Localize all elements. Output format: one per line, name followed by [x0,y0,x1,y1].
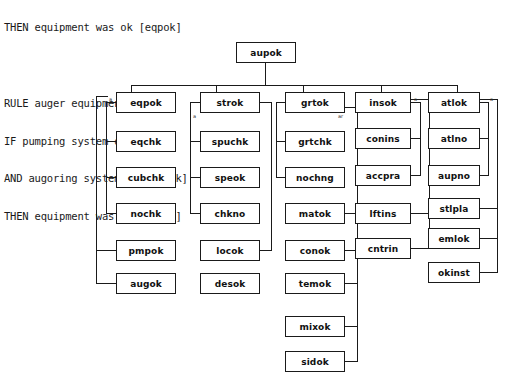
tree-node-pmpok[interactable]: pmpok [116,240,176,261]
tree-node-atlno[interactable]: atlno [428,128,480,149]
edge-marker-2: a [193,114,196,119]
tree-node-eqchk[interactable]: eqchk [116,131,176,152]
tree-node-speok[interactable]: speok [200,167,260,188]
connector-c2-locok-out [260,250,272,251]
tree-node-okinst[interactable]: okinst [428,262,480,283]
connector-root-stem [265,63,266,86]
tree-node-aupno[interactable]: aupno [428,165,480,186]
connector-c3-grtok-in [276,102,285,103]
connector-c1-eqpok-in [106,102,116,103]
tree-node-nochk[interactable]: nochk [116,203,176,224]
tree-node-conok[interactable]: conok [285,240,345,261]
tree-node-temok[interactable]: temok [285,273,345,294]
tree-node-sidok[interactable]: sidok [285,351,345,372]
tree-node-atlok[interactable]: atlok [428,92,480,113]
connector-c1-inner-bus [106,102,107,214]
tree-node-cntrin[interactable]: cntrin [355,238,411,259]
connector-c3-temok-out [345,283,358,284]
tree-node-mixok[interactable]: mixok [285,316,345,337]
tree-node-emlok[interactable]: emlok [428,228,480,249]
tree-diagram: aupok eqpok eqchk cubchk nochk pmpok aug… [0,0,514,392]
connector-c5-outer-bus [497,99,498,273]
tree-node-stlpla[interactable]: stlpla [428,198,480,219]
connector-c4-conins-out [411,138,421,139]
edge-marker-4: a [414,97,417,102]
connector-c3-grtchk-in [276,141,285,142]
connector-c1-cubchk-in [106,177,116,178]
connector-c1-outer-top [96,96,108,97]
connector-c2-inner-bus [190,102,191,214]
tree-node-spuchk[interactable]: spuchk [200,131,260,152]
connector-c5-stlpla-out [480,208,498,209]
tree-node-locok[interactable]: locok [200,240,260,261]
tree-node-conins[interactable]: conins [355,128,411,149]
connector-c1-augok-in [96,283,116,284]
tree-node-insok[interactable]: insok [355,92,411,113]
connector-c5-okinst-out [480,272,498,273]
connector-c1-outer-bus [96,96,97,284]
tree-node-root[interactable]: aupok [236,42,296,63]
connector-c1-nochk-in [106,213,116,214]
connector-c2-spuchk-in [190,141,200,142]
tree-node-matok[interactable]: matok [285,203,345,224]
tree-node-grtchk[interactable]: grtchk [285,131,345,152]
tree-node-chkno[interactable]: chkno [200,203,260,224]
tree-node-accpra[interactable]: accpra [355,165,411,186]
connector-c3-mixok-out [345,326,358,327]
connector-c5-outer-top [480,99,498,100]
connector-c1-eqchk-in [106,141,116,142]
connector-c5-emlok-out [480,238,498,239]
tree-node-grtok[interactable]: grtok [285,92,345,113]
connector-c5-atlno-out [480,138,489,139]
edge-marker-3: ar [338,114,343,119]
connector-root-bus [131,85,458,86]
connector-c3-inner-bus [276,102,277,178]
connector-c2-speok-in [190,177,200,178]
edge-marker-1: a [109,97,112,102]
connector-c2-chkno-in [190,213,200,214]
connector-c5-aupno-out [480,175,489,176]
connector-c1-pmpok-in [96,250,116,251]
connector-c4-accpra-out [411,175,421,176]
tree-node-eqpok[interactable]: eqpok [116,92,176,113]
tree-node-strok[interactable]: strok [200,92,260,113]
tree-node-lftins[interactable]: lftins [355,203,411,224]
connector-c3-nochng-in [276,177,285,178]
connector-c3-sidok-out [345,361,358,362]
edge-marker-5: a [490,97,493,102]
connector-c2-right-bus [271,102,272,250]
tree-node-desok[interactable]: desok [200,273,260,294]
connector-c2-strok-in [190,102,200,103]
tree-node-augok[interactable]: augok [116,273,176,294]
tree-node-nochng[interactable]: nochng [285,167,345,188]
tree-node-cubchk[interactable]: cubchk [116,167,176,188]
